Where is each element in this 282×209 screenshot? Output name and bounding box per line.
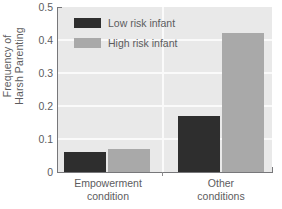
y-axis-top-cap [57, 7, 62, 8]
y-tick-label-0.2: 0.2 [38, 101, 53, 112]
bar-high-risk-other[interactable] [222, 33, 264, 172]
y-tick-label-0.3: 0.3 [38, 68, 53, 79]
legend-label-low-risk: Low risk infant [108, 17, 175, 29]
legend-item-low-risk-infant[interactable]: Low risk infant [74, 13, 177, 33]
bar-low-risk-other[interactable] [178, 116, 220, 172]
legend-label-high-risk: High risk infant [108, 37, 177, 49]
y-tick-label-0.1: 0.1 [38, 134, 53, 145]
x-axis-right-cap [272, 167, 273, 173]
x-category-other-line1: Other [166, 177, 276, 190]
bar-chart: Frequency of Harsh Parenting 0.5 0.4 0.3… [0, 0, 282, 209]
y-axis-spine [57, 7, 58, 173]
y-tick-label-0.4: 0.4 [38, 35, 53, 46]
x-category-empowerment-line2: condition [53, 190, 163, 203]
legend: Low risk infant High risk infant [74, 13, 177, 53]
bar-low-risk-empowerment[interactable] [64, 152, 106, 172]
y-axis-title-line2: Harsh Parenting [13, 27, 26, 104]
legend-swatch-icon-high-risk [74, 38, 101, 48]
y-axis-tick-labels: 0.5 0.4 0.3 0.2 0.1 0 [28, 0, 53, 179]
y-tick-label-0.5: 0.5 [38, 2, 53, 13]
x-tick-mark-divider [162, 172, 163, 176]
legend-item-high-risk-infant[interactable]: High risk infant [74, 33, 177, 53]
y-axis-title: Frequency of Harsh Parenting [0, 6, 26, 126]
legend-swatch-icon-low-risk [74, 18, 101, 28]
x-category-other: Other conditions [166, 177, 276, 203]
x-category-empowerment: Empowerment condition [53, 177, 163, 203]
y-axis-title-line1: Frequency of [1, 35, 14, 97]
y-tick-label-0: 0 [47, 167, 53, 178]
x-category-empowerment-line1: Empowerment [53, 177, 163, 190]
x-axis-spine [57, 172, 273, 173]
bar-high-risk-empowerment[interactable] [108, 149, 150, 172]
x-category-other-line2: conditions [166, 190, 276, 203]
x-axis-category-labels: Empowerment condition Other conditions [58, 177, 272, 207]
